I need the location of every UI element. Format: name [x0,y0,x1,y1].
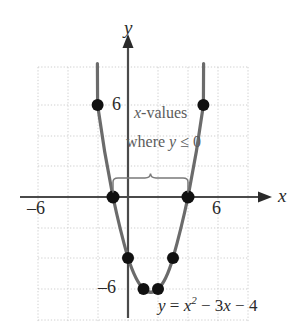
data-point [138,283,150,295]
annotation-line-2: where y ≤ 0 [126,134,201,150]
y-tick-label-negative-six: –6 [98,278,116,296]
equation-equals: = [170,296,180,315]
annotation-values-text: -values [141,104,187,121]
y-tick-label-positive-six: 6 [112,95,121,113]
annotation-inequality: ≤ 0 [176,133,201,150]
equation-term-linear: − 3 [201,296,223,315]
graph-figure: y x –6 6 6 –6 x-values where y ≤ 0 y = x… [0,0,306,329]
x-values-brace-icon [113,174,188,193]
annotation-line-1: x-values [134,105,187,121]
equation-variable-2: x [223,296,231,315]
annotation-where-text: where [126,133,169,150]
x-tick-label-positive-six: 6 [212,199,221,217]
equation-lhs: y [158,296,166,315]
x-tick-label-negative-six: –6 [27,199,45,217]
data-point [92,99,104,111]
data-point [122,252,134,264]
data-point [197,99,209,111]
y-axis-label: y [124,18,132,37]
data-point [152,283,164,295]
y-axis [123,34,134,318]
equation-term-constant: − 4 [235,296,257,315]
equation-label: y = x2 − 3x − 4 [158,295,257,314]
parabola-plot [0,0,306,329]
x-axis-label: x [278,186,286,205]
x-axis [20,192,272,203]
data-point [167,252,179,264]
equation-exponent: 2 [191,294,197,306]
